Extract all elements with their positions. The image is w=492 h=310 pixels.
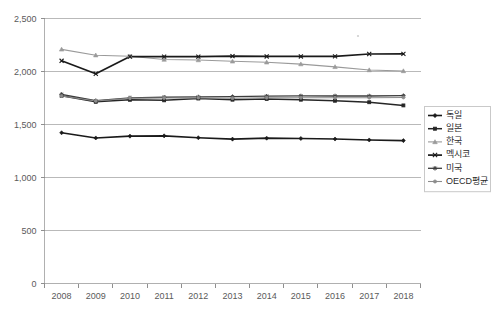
y-tick-label-0: 0 <box>31 279 36 289</box>
series-marker-독일-2018 <box>401 139 405 143</box>
chart-legend: 독일일본한국멕시코미국OECD평균 <box>425 107 491 192</box>
x-tick-label-2017: 2017 <box>359 291 379 301</box>
x-tick-label-2018: 2018 <box>393 291 413 301</box>
y-tick-label-1000: 1,000 <box>14 173 37 183</box>
series-marker-독일-2009 <box>94 136 98 140</box>
series-markers-group <box>59 47 405 142</box>
legend-label-한국: 한국 <box>446 136 462 146</box>
legend-label-OECD평균: OECD평균 <box>446 176 488 186</box>
x-tick-label-2008: 2008 <box>52 291 72 301</box>
series-marker-일본-2016 <box>334 99 337 102</box>
x-axis-labels: 2008200920102011201220132014201520162017… <box>52 291 414 301</box>
legend-label-미국: 미국 <box>446 163 462 173</box>
series-marker-OECD평균-2009 <box>94 99 97 102</box>
y-tick-label-2500: 2,500 <box>14 14 37 24</box>
series-marker-독일-2017 <box>367 138 371 142</box>
plot-frame <box>45 19 421 284</box>
legend-marker-OECD평균 <box>433 180 436 183</box>
x-tick-label-2012: 2012 <box>188 291 208 301</box>
series-marker-일본-2018 <box>402 104 405 107</box>
y-tick-label-1500: 1,500 <box>14 120 37 130</box>
series-marker-OECD평균-2014 <box>265 96 268 99</box>
x-axis-ticks <box>45 284 421 288</box>
series-marker-OECD평균-2017 <box>368 96 371 99</box>
speckle-artifact <box>357 35 359 37</box>
x-tick-label-2016: 2016 <box>325 291 345 301</box>
series-marker-OECD평균-2010 <box>128 97 131 100</box>
legend-label-독일: 독일 <box>446 110 462 120</box>
y-axis-labels: 05001,0001,5002,0002,500 <box>14 14 37 289</box>
x-tick-label-2014: 2014 <box>257 291 277 301</box>
x-tick-label-2013: 2013 <box>222 291 242 301</box>
y-tick-label-500: 500 <box>21 226 36 236</box>
legend-marker-일본 <box>433 127 436 130</box>
legend-marker-미국 <box>433 166 438 171</box>
series-marker-일본-2017 <box>368 101 371 104</box>
y-axis-ticks <box>41 19 45 284</box>
series-marker-독일-2010 <box>128 134 132 138</box>
series-marker-독일-2015 <box>299 136 303 140</box>
series-marker-OECD평균-2008 <box>60 94 63 97</box>
series-marker-OECD평균-2015 <box>299 96 302 99</box>
legend-label-일본: 일본 <box>446 123 462 133</box>
series-marker-OECD평균-2018 <box>402 96 405 99</box>
x-tick-label-2009: 2009 <box>86 291 106 301</box>
gridlines-group <box>45 19 421 284</box>
series-marker-OECD평균-2013 <box>231 97 234 100</box>
series-marker-독일-2016 <box>333 137 337 141</box>
chart-container: 05001,0001,5002,0002,500 200820092010201… <box>0 0 492 310</box>
series-marker-OECD평균-2011 <box>163 97 166 100</box>
line-chart: 05001,0001,5002,0002,500 200820092010201… <box>0 0 492 310</box>
series-marker-독일-2008 <box>60 131 64 135</box>
series-marker-독일-2011 <box>162 134 166 138</box>
legend-label-멕시코: 멕시코 <box>446 149 470 159</box>
series-marker-독일-2013 <box>231 137 235 141</box>
series-marker-독일-2014 <box>265 136 269 140</box>
x-tick-label-2011: 2011 <box>154 291 173 301</box>
series-marker-OECD평균-2016 <box>334 96 337 99</box>
y-tick-label-2000: 2,000 <box>14 67 37 77</box>
series-marker-OECD평균-2012 <box>197 96 200 99</box>
series-marker-독일-2012 <box>196 136 200 140</box>
x-tick-label-2010: 2010 <box>120 291 140 301</box>
x-tick-label-2015: 2015 <box>291 291 311 301</box>
